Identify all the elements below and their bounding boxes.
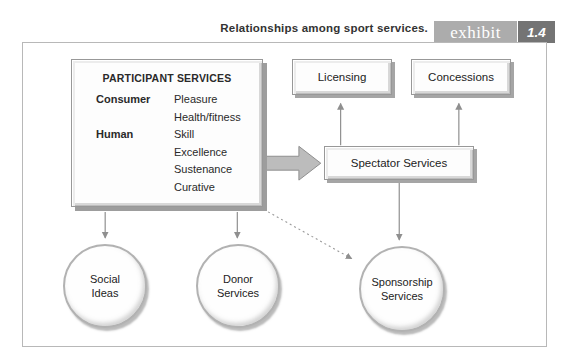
diagram-frame: PARTICIPANT SERVICES Consumer Pleasure H… xyxy=(22,42,547,347)
circle-label-line: Social xyxy=(90,272,120,286)
circle-label-line: Services xyxy=(381,289,423,303)
participant-row: Health/fitness xyxy=(96,109,262,127)
block-arrow-participant-to-spectator xyxy=(265,146,321,180)
concessions-box: Concessions xyxy=(411,59,511,95)
participant-group-label xyxy=(96,109,174,127)
donor-services-circle: Donor Services xyxy=(196,244,280,328)
participant-item: Curative xyxy=(174,179,215,197)
participant-row: Curative xyxy=(96,179,262,197)
participant-services-title: PARTICIPANT SERVICES xyxy=(72,60,262,84)
figure-caption: Relationships among sport services. xyxy=(0,22,428,34)
participant-group-label: Human xyxy=(96,126,174,144)
participant-row: Human Skill xyxy=(96,126,262,144)
participant-item: Health/fitness xyxy=(174,109,241,127)
participant-group-label xyxy=(96,179,174,197)
arrow-dotted-participant-to-sponsorship xyxy=(268,212,351,259)
circle-label-line: Sponsorship xyxy=(371,275,432,289)
circle-label-line: Ideas xyxy=(92,286,119,300)
participant-services-box: PARTICIPANT SERVICES Consumer Pleasure H… xyxy=(71,59,263,207)
participant-row: Excellence xyxy=(96,144,262,162)
exhibit-number-badge: 1.4 xyxy=(518,21,555,43)
participant-item: Sustenance xyxy=(174,161,232,179)
sponsorship-services-circle: Sponsorship Services xyxy=(359,246,445,332)
participant-row: Sustenance xyxy=(96,161,262,179)
participant-services-list: Consumer Pleasure Health/fitness Human S… xyxy=(96,91,262,196)
licensing-box: Licensing xyxy=(292,59,392,95)
exhibit-badge: exhibit xyxy=(434,21,517,43)
participant-item: Pleasure xyxy=(174,91,217,109)
circle-label-line: Donor xyxy=(223,272,253,286)
participant-item: Excellence xyxy=(174,144,227,162)
participant-group-label: Consumer xyxy=(96,91,174,109)
participant-item: Skill xyxy=(174,126,194,144)
participant-row: Consumer Pleasure xyxy=(96,91,262,109)
social-ideas-circle: Social Ideas xyxy=(63,244,147,328)
participant-group-label xyxy=(96,144,174,162)
spectator-services-box: Spectator Services xyxy=(324,146,474,180)
circle-label-line: Services xyxy=(217,286,259,300)
participant-group-label xyxy=(96,161,174,179)
